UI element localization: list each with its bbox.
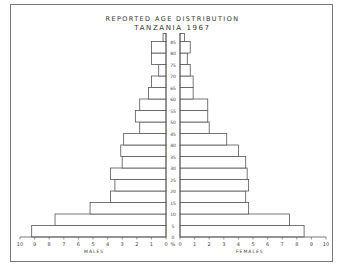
- age-label: 35: [170, 155, 176, 160]
- age-label: 15: [170, 201, 176, 206]
- x-tick-label: 8: [48, 241, 51, 247]
- age-label: 60: [170, 97, 176, 102]
- x-tick-label: 7: [62, 241, 65, 247]
- x-tick-label: 10: [323, 241, 329, 247]
- age-label: 70: [170, 74, 176, 79]
- male-bar-45: [140, 122, 166, 134]
- x-tick-label: 2: [135, 241, 138, 247]
- male-bar-70: [159, 65, 166, 77]
- female-bar-50: [180, 111, 208, 123]
- age-label: 5: [172, 224, 175, 229]
- age-label: 20: [170, 189, 176, 194]
- x-tick-label: 6: [266, 241, 269, 247]
- female-bar-65: [180, 76, 193, 88]
- male-bar-30: [122, 157, 166, 169]
- x-tick-label: 9: [33, 241, 36, 247]
- population-pyramid: 0510152025303540455055606570758085001122…: [0, 0, 345, 268]
- age-label: 30: [170, 166, 176, 171]
- x-tick-label: 1: [193, 241, 196, 247]
- male-bar-40: [124, 134, 166, 146]
- x-tick-label: 1: [150, 241, 153, 247]
- age-label: 85: [170, 40, 176, 45]
- male-bar-80: [151, 42, 166, 54]
- female-bar-10: [180, 203, 249, 215]
- male-bar-65: [151, 76, 166, 88]
- female-bar-5: [180, 214, 290, 226]
- x-tick-label: 8: [295, 241, 298, 247]
- male-bar-25: [111, 168, 166, 180]
- age-label: 80: [170, 51, 176, 56]
- x-tick-label: 3: [121, 241, 124, 247]
- age-label: 40: [170, 143, 176, 148]
- x-tick-label: 10: [17, 241, 23, 247]
- male-bar-60: [148, 88, 166, 100]
- female-bar-85: [180, 34, 184, 42]
- male-bar-35: [121, 145, 166, 157]
- age-label: 65: [170, 86, 176, 91]
- female-bar-60: [180, 88, 193, 100]
- percent-symbol: %: [171, 241, 176, 247]
- age-label: 50: [170, 120, 176, 125]
- female-bar-80: [180, 42, 190, 54]
- x-tick-label: 7: [281, 241, 284, 247]
- x-tick-label: 3: [222, 241, 225, 247]
- x-tick-label: 5: [251, 241, 254, 247]
- male-bar-15: [111, 191, 166, 203]
- female-bar-40: [180, 134, 227, 146]
- x-tick-label: 0: [178, 241, 181, 247]
- male-bar-0: [32, 226, 166, 238]
- x-tick-label: 4: [106, 241, 109, 247]
- male-bar-75: [151, 53, 166, 65]
- female-bar-45: [180, 122, 209, 134]
- female-bar-15: [180, 191, 246, 203]
- age-label: 55: [170, 109, 176, 114]
- female-bar-70: [180, 65, 190, 77]
- male-bar-10: [90, 203, 166, 215]
- x-tick-label: 0: [164, 241, 167, 247]
- female-bar-55: [180, 99, 208, 111]
- female-bar-75: [180, 53, 187, 65]
- males-axis-label: MALES: [84, 249, 104, 254]
- female-bar-35: [180, 145, 238, 157]
- male-bar-20: [115, 180, 166, 192]
- x-tick-label: 5: [91, 241, 94, 247]
- age-label: 10: [170, 212, 176, 217]
- age-label: 25: [170, 178, 176, 183]
- male-bar-5: [55, 214, 166, 226]
- female-bar-0: [180, 226, 304, 238]
- female-bar-30: [180, 157, 246, 169]
- females-axis-label: FEMALES: [236, 249, 264, 254]
- male-bar-85: [163, 34, 166, 42]
- x-tick-label: 6: [77, 241, 80, 247]
- x-tick-label: 4: [237, 241, 240, 247]
- x-tick-label: 2: [208, 241, 211, 247]
- x-tick-label: 9: [310, 241, 313, 247]
- female-bar-20: [180, 180, 249, 192]
- male-bar-55: [140, 99, 166, 111]
- female-bar-25: [180, 168, 247, 180]
- age-label: 0: [172, 235, 175, 240]
- age-label: 75: [170, 63, 176, 68]
- age-label: 45: [170, 132, 176, 137]
- male-bar-50: [135, 111, 166, 123]
